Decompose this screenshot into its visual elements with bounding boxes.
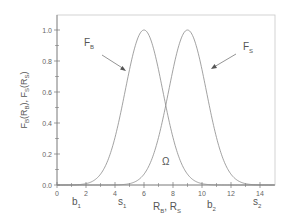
x-axis-title: RB, RS	[153, 201, 181, 214]
x-tick-label: 4	[113, 190, 117, 197]
x-tick-label: 10	[198, 190, 206, 197]
x-tick-label: 6	[142, 190, 146, 197]
y-tick-label: 0.0	[42, 182, 52, 189]
y-axis-title: FB(RB), FS(RS)	[19, 71, 30, 128]
y-tick-label: 1.0	[42, 27, 52, 34]
x-tick-label: 8	[171, 190, 175, 197]
y-tick-label: 0.6	[42, 89, 52, 96]
label-fs: FS	[243, 41, 253, 54]
x-tick-label: 0	[55, 190, 59, 197]
label-s1: s1	[118, 196, 127, 209]
label-omega: Ω	[162, 156, 170, 167]
label-s2: s2	[253, 196, 262, 209]
arrow-fs	[214, 54, 236, 67]
y-tick-label: 0.4	[42, 120, 52, 127]
svg-text:FB(RB), FS(RS): FB(RB), FS(RS)	[19, 71, 30, 128]
axis-ticks: 024681012140.00.20.40.60.81.0	[42, 27, 264, 198]
y-tick-label: 0.8	[42, 58, 52, 65]
label-b2: b2	[207, 199, 217, 212]
x-tick-label: 2	[84, 190, 88, 197]
x-tick-label: 12	[227, 190, 235, 197]
label-b1: b1	[72, 196, 82, 209]
arrowhead-fs-icon	[211, 64, 217, 69]
y-tick-label: 0.2	[42, 151, 52, 158]
arrow-fb	[102, 55, 124, 69]
gaussian-overlap-chart: 024681012140.00.20.40.60.81.0 FB(RB), FS…	[0, 0, 291, 223]
label-fb: FB	[84, 37, 94, 50]
